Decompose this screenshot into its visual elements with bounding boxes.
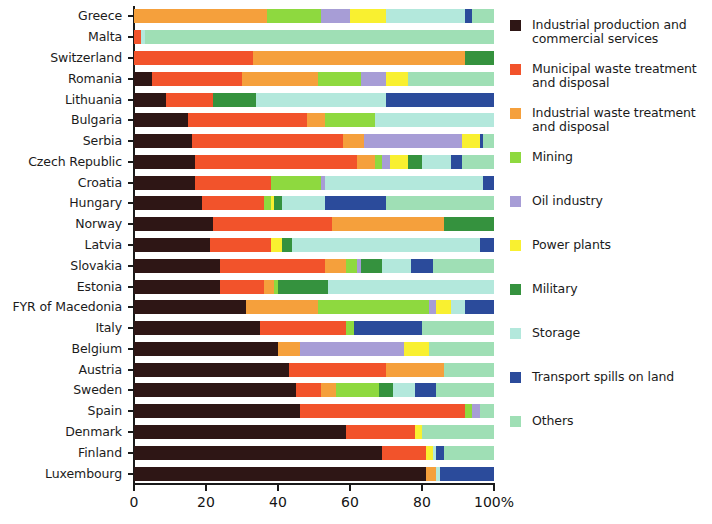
plot-area — [134, 6, 494, 484]
legend-swatch-icon — [510, 152, 521, 163]
bar-segment — [361, 72, 386, 86]
legend-swatch-icon — [510, 284, 521, 295]
bar-segment — [379, 383, 393, 397]
bar-segment — [134, 9, 267, 23]
bar-segment — [264, 280, 275, 294]
category-label-serbia: Serbia — [83, 133, 122, 148]
legend-swatch-icon — [510, 328, 521, 339]
bar-segment — [472, 404, 479, 418]
x-axis-tick — [277, 485, 279, 491]
bar-segment — [440, 467, 494, 481]
bar-segment — [152, 72, 242, 86]
bar-segment — [415, 383, 437, 397]
category-label-slovakia: Slovakia — [70, 258, 122, 273]
bar-segment — [134, 155, 195, 169]
legend-item-military[interactable]: Military — [510, 282, 578, 296]
legend-item-oil-industry[interactable]: Oil industry — [510, 194, 603, 208]
bar-segment — [336, 383, 379, 397]
y-axis-tick — [128, 286, 134, 288]
bar-luxembourg — [134, 467, 494, 481]
legend-label: Military — [532, 282, 578, 296]
bar-segment — [278, 280, 328, 294]
legend-label: Industrial production and commercial ser… — [532, 18, 687, 46]
bar-segment — [134, 93, 166, 107]
bar-segment — [404, 342, 429, 356]
legend-item-municipal-waste-treatment[interactable]: Municipal waste treatment and disposal — [510, 62, 697, 90]
bar-segment — [202, 196, 263, 210]
bar-segment — [390, 155, 408, 169]
y-axis-tick — [128, 431, 134, 433]
bar-segment — [480, 404, 494, 418]
chart-container: GreeceMaltaSwitzerlandRomaniaLithuaniaBu… — [0, 0, 712, 524]
bar-segment — [408, 155, 422, 169]
bar-segment — [195, 176, 271, 190]
bar-segment — [246, 300, 318, 314]
y-axis-tick — [128, 369, 134, 371]
bar-segment — [386, 72, 408, 86]
bar-segment — [429, 300, 436, 314]
y-axis-tick — [128, 244, 134, 246]
category-label-hungary: Hungary — [69, 195, 122, 210]
bar-segment — [346, 321, 353, 335]
bar-sweden — [134, 383, 494, 397]
legend-item-others[interactable]: Others — [510, 414, 573, 428]
bar-segment — [134, 113, 188, 127]
bar-segment — [433, 259, 494, 273]
legend-item-storage[interactable]: Storage — [510, 326, 580, 340]
y-axis-tick — [128, 36, 134, 38]
y-axis-tick — [128, 410, 134, 412]
legend-label: Transport spills on land — [532, 370, 674, 384]
bar-segment — [292, 238, 479, 252]
bar-segment — [134, 446, 382, 460]
legend-label: Others — [532, 414, 573, 428]
y-axis-tick — [128, 327, 134, 329]
y-axis-tick — [128, 119, 134, 121]
category-label-latvia: Latvia — [85, 237, 122, 252]
bar-segment — [134, 467, 426, 481]
bar-finland — [134, 446, 494, 460]
bar-segment — [321, 9, 350, 23]
bar-segment — [346, 259, 357, 273]
bar-segment — [134, 280, 220, 294]
bar-segment — [382, 259, 411, 273]
x-axis-tick — [493, 485, 495, 491]
bar-segment — [422, 321, 494, 335]
bar-segment — [134, 72, 152, 86]
legend-label: Mining — [532, 150, 573, 164]
bar-czech-republic — [134, 155, 494, 169]
bar-segment — [436, 446, 443, 460]
bar-segment — [325, 259, 347, 273]
category-label-czech-republic: Czech Republic — [28, 154, 122, 169]
legend-item-mining[interactable]: Mining — [510, 150, 573, 164]
legend-swatch-icon — [510, 108, 521, 119]
legend-label: Industrial waste treatment and disposal — [532, 106, 696, 134]
y-axis-tick — [128, 348, 134, 350]
bar-segment — [134, 363, 289, 377]
category-label-denmark: Denmark — [65, 424, 122, 439]
bar-serbia — [134, 134, 494, 148]
bar-segment — [422, 425, 494, 439]
legend-item-industrial-production-and[interactable]: Industrial production and commercial ser… — [510, 18, 687, 46]
bar-bulgaria — [134, 113, 494, 127]
bar-segment — [350, 9, 386, 23]
bar-segment — [483, 134, 494, 148]
bar-segment — [318, 72, 361, 86]
bar-segment — [318, 300, 430, 314]
bar-segment — [325, 113, 375, 127]
bar-segment — [296, 383, 321, 397]
bar-estonia — [134, 280, 494, 294]
bar-segment — [134, 176, 195, 190]
x-axis-tick — [421, 485, 423, 491]
legend-item-power-plants[interactable]: Power plants — [510, 238, 611, 252]
legend-item-transport-spills-on-land[interactable]: Transport spills on land — [510, 370, 674, 384]
y-axis-tick — [128, 202, 134, 204]
bar-segment — [260, 321, 346, 335]
bar-segment — [343, 134, 365, 148]
bar-romania — [134, 72, 494, 86]
category-label-belgium: Belgium — [71, 341, 122, 356]
bar-segment — [134, 342, 278, 356]
bar-segment — [282, 196, 325, 210]
legend-item-industrial-waste-treatment[interactable]: Industrial waste treatment and disposal — [510, 106, 696, 134]
bar-segment — [289, 363, 386, 377]
x-axis-tick-label: 60 — [341, 494, 359, 510]
